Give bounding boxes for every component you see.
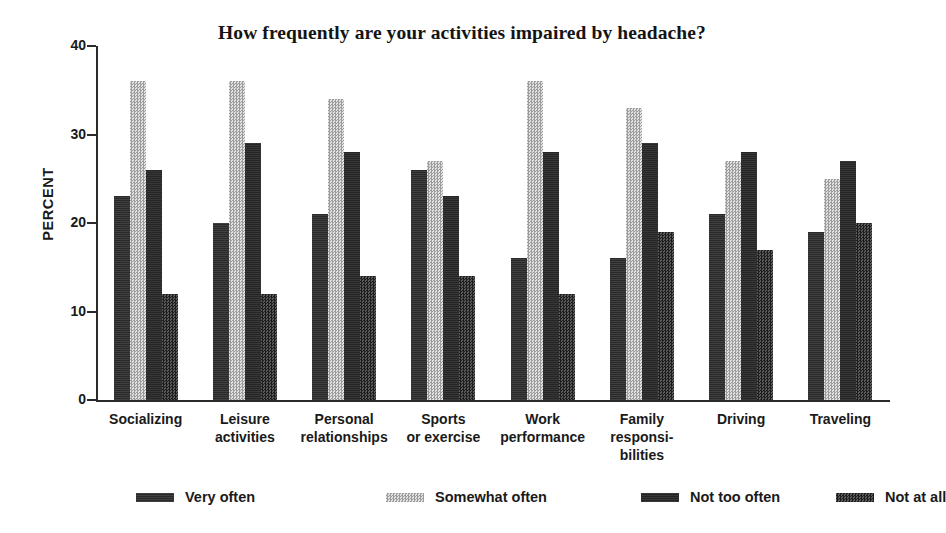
bar bbox=[245, 143, 261, 400]
bar bbox=[360, 276, 376, 400]
y-tick-label-40: 40 bbox=[40, 37, 86, 53]
x-axis-label: Socializing bbox=[96, 410, 195, 428]
bar-group bbox=[808, 46, 872, 400]
bar bbox=[229, 81, 245, 400]
bar-group bbox=[312, 46, 376, 400]
x-axis-label: Familyresponsi-bilities bbox=[592, 410, 691, 464]
legend-swatch-icon bbox=[836, 493, 874, 502]
bar bbox=[459, 276, 475, 400]
bar bbox=[808, 232, 824, 400]
bar-group bbox=[610, 46, 674, 400]
x-axis-label: Personalrelationships bbox=[295, 410, 394, 446]
x-axis-label-line: Socializing bbox=[96, 410, 195, 428]
bar bbox=[543, 152, 559, 400]
x-axis-label: Workperformance bbox=[493, 410, 592, 446]
legend-label: Very often bbox=[185, 489, 255, 505]
legend-swatch-icon bbox=[136, 493, 174, 502]
bar-group bbox=[709, 46, 773, 400]
legend-item[interactable]: Somewhat often bbox=[386, 486, 547, 508]
x-axis-label-line: relationships bbox=[295, 428, 394, 446]
y-tick-10 bbox=[87, 311, 96, 313]
x-axis-label: Traveling bbox=[791, 410, 890, 428]
legend-item[interactable]: Very often bbox=[136, 486, 255, 508]
bar-group bbox=[411, 46, 475, 400]
x-axis-label-line: Work bbox=[493, 410, 592, 428]
bar bbox=[411, 170, 427, 400]
bar bbox=[527, 81, 543, 400]
x-axis-line bbox=[96, 400, 890, 402]
legend-swatch-icon bbox=[641, 493, 679, 502]
bar bbox=[328, 99, 344, 400]
x-axis-label-line: or exercise bbox=[394, 428, 493, 446]
x-axis-label-line: activities bbox=[195, 428, 294, 446]
bar bbox=[725, 161, 741, 400]
x-axis-label-line: Personal bbox=[295, 410, 394, 428]
bar bbox=[840, 161, 856, 400]
x-axis-label-line: performance bbox=[493, 428, 592, 446]
bar bbox=[114, 196, 130, 400]
y-tick-0 bbox=[87, 399, 96, 401]
bar bbox=[312, 214, 328, 400]
legend-item[interactable]: Not too often bbox=[641, 486, 780, 508]
legend-label: Not at all bbox=[885, 489, 946, 505]
x-axis-label-line: Sports bbox=[394, 410, 493, 428]
bar bbox=[130, 81, 146, 400]
y-tick-label-10: 10 bbox=[40, 303, 86, 319]
x-axis-label-line: Traveling bbox=[791, 410, 890, 428]
bar bbox=[213, 223, 229, 400]
bar-group bbox=[114, 46, 178, 400]
bar bbox=[443, 196, 459, 400]
x-axis-label-line: Leisure bbox=[195, 410, 294, 428]
y-tick-40 bbox=[87, 45, 96, 47]
bar-group bbox=[511, 46, 575, 400]
chart-legend: Very oftenSomewhat oftenNot too oftenNot… bbox=[96, 486, 890, 512]
bar bbox=[146, 170, 162, 400]
y-axis-title: PERCENT bbox=[40, 144, 56, 264]
legend-label: Somewhat often bbox=[435, 489, 547, 505]
y-tick-30 bbox=[87, 134, 96, 136]
bar bbox=[642, 143, 658, 400]
bar bbox=[427, 161, 443, 400]
bar-group bbox=[213, 46, 277, 400]
bar bbox=[261, 294, 277, 400]
y-tick-20 bbox=[87, 222, 96, 224]
bar bbox=[610, 258, 626, 400]
x-axis-label: Driving bbox=[692, 410, 791, 428]
legend-swatch-icon bbox=[386, 493, 424, 502]
legend-label: Not too often bbox=[690, 489, 780, 505]
bar bbox=[824, 179, 840, 400]
bar bbox=[658, 232, 674, 400]
bar bbox=[741, 152, 757, 400]
y-tick-label-30: 30 bbox=[40, 126, 86, 142]
x-axis-label-line: Driving bbox=[692, 410, 791, 428]
bar bbox=[162, 294, 178, 400]
bar bbox=[626, 108, 642, 400]
y-tick-label-20: 20 bbox=[40, 214, 86, 230]
bar bbox=[856, 223, 872, 400]
y-tick-label-0: 0 bbox=[40, 391, 86, 407]
bar bbox=[559, 294, 575, 400]
x-axis-label-line: Family bbox=[592, 410, 691, 428]
bar bbox=[757, 250, 773, 400]
x-axis-label-line: responsi- bbox=[592, 428, 691, 446]
x-axis-label: Leisureactivities bbox=[195, 410, 294, 446]
legend-item[interactable]: Not at all bbox=[836, 486, 946, 508]
bar bbox=[344, 152, 360, 400]
x-axis-label-line: bilities bbox=[592, 446, 691, 464]
bar bbox=[709, 214, 725, 400]
plot-area bbox=[96, 46, 890, 400]
bar bbox=[511, 258, 527, 400]
x-axis-label: Sportsor exercise bbox=[394, 410, 493, 446]
chart-title: How frequently are your activities impai… bbox=[0, 22, 924, 44]
